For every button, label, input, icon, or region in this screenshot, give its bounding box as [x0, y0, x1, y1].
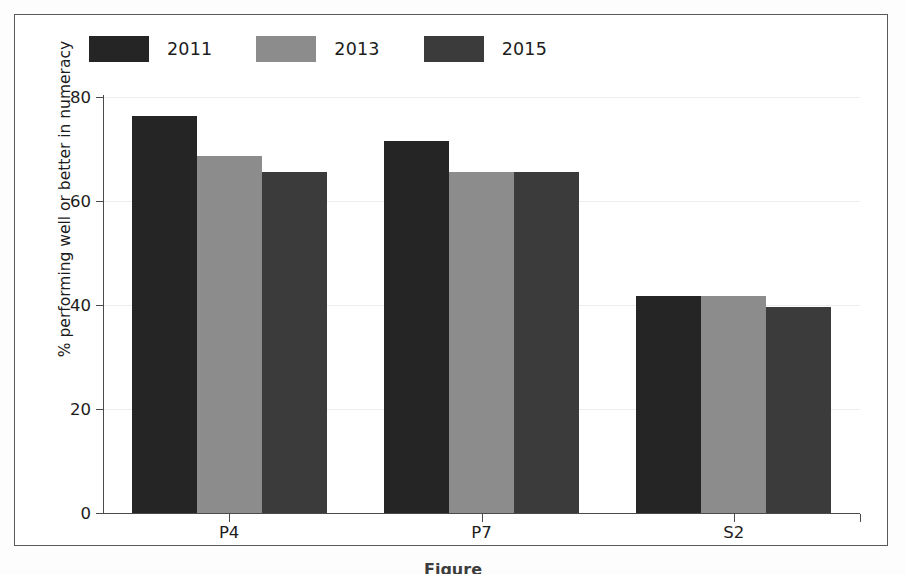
- bar-P4-2015: [262, 172, 327, 513]
- bars-layer: [15, 15, 889, 513]
- bar-P4-2013: [197, 156, 262, 513]
- x-tick-P7: [482, 514, 483, 522]
- x-tick-label-S2: S2: [674, 523, 794, 542]
- bar-P4-2011: [132, 116, 197, 513]
- x-tick-P4: [229, 514, 230, 522]
- bar-P7-2013: [449, 172, 514, 513]
- x-axis-right-cap: [860, 514, 861, 522]
- x-tick-label-P4: P4: [169, 523, 289, 542]
- scanned-page: 2011 2013 2015 % performing well or bett…: [0, 0, 906, 574]
- bar-P7-2011: [384, 141, 449, 513]
- figure-caption: Figure: [0, 560, 906, 574]
- bar-S2-2013: [701, 296, 766, 513]
- plot-area: % performing well or better in numeracy …: [15, 15, 889, 547]
- bar-S2-2011: [636, 296, 701, 513]
- x-tick-S2: [734, 514, 735, 522]
- x-tick-label-P7: P7: [422, 523, 542, 542]
- bar-P7-2015: [514, 172, 579, 513]
- figure-frame: 2011 2013 2015 % performing well or bett…: [14, 14, 888, 546]
- bar-S2-2015: [766, 307, 831, 513]
